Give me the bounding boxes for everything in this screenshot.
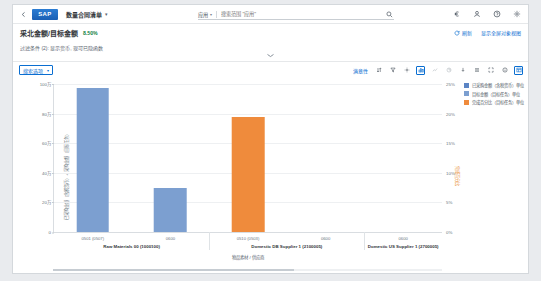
toolbar-right-label[interactable]: 满意性 [353,67,368,74]
x-axis-category-label: 0501 (0507) [82,236,105,241]
settings-gear-icon[interactable] [402,66,411,75]
legend-label: 完成百分比（目标任务）单位 [472,99,524,105]
view-selector-dropdown[interactable]: 搜索选项 ▾ [19,65,53,75]
help-icon[interactable] [491,8,502,19]
gridline [54,84,442,85]
gridline [54,114,442,115]
search-scope-selector[interactable]: 应用 ▾ [198,11,212,18]
sort-icon[interactable] [374,66,383,75]
x-axis-title: 物品素材 / 供应商 [54,254,442,260]
status-badge: 8.50% [83,30,98,36]
y-axis-tick-right: 15% [446,141,455,146]
app-title[interactable]: 数量合同清单 [66,10,102,19]
horizontal-scrollbar[interactable] [53,269,442,271]
search-icon[interactable] [385,10,394,19]
view-selector-label: 搜索选项 [23,67,43,74]
search-bar[interactable]: 应用 ▾ [198,9,394,20]
gridline [54,232,442,233]
x-axis-group-label: Raw Materials 00 (1000100) [103,244,160,249]
y-axis-tick-left: 20万 [42,199,51,205]
filter-icon[interactable] [388,66,397,75]
chart-toolbar: 搜索选项 ▾ 满意性 [13,62,528,78]
y-axis-tick-left: 60万 [42,140,51,146]
chevron-down-icon: ▾ [47,68,49,73]
x-axis-group-label: Domestic US Supplier 1 (2700005) [368,244,439,249]
chart-bar[interactable] [232,117,265,232]
refresh-button[interactable]: 刷新 [454,29,472,36]
y-axis-tick-left: 0 [49,230,51,235]
title-action-group: 刷新 显示全屏对象视图 [454,24,521,41]
settings-icon[interactable] [511,8,522,19]
collapse-header-button[interactable] [13,53,528,62]
search-scope-label: 应用 [198,11,208,18]
legend-item[interactable]: 已采购金额（含税货币）单位 [464,82,524,88]
table-view-icon[interactable] [514,66,523,75]
x-axis-group-divider [364,232,365,250]
kpi-title-row: 采北金额/目标金额 8.50% 刷新 显示全屏对象视图 [13,24,528,41]
filter-summary-text: 过滤条件 (2): 显示货币, 现可已隐函数 [20,44,103,51]
filter-summary-row[interactable]: 过滤条件 (2): 显示货币, 现可已隐函数 [13,41,528,53]
chevron-left-icon[interactable] [18,9,29,20]
chart-line-icon[interactable] [430,66,439,75]
search-input[interactable] [221,11,385,17]
fullscreen-button[interactable]: 显示全屏对象视图 [481,29,521,36]
x-axis-group-label: Domestic DB Supplier 1 (2100005) [251,244,322,249]
chart-legend: 已采购金额（含税货币）单位目标金额（目标任务）单位完成百分比（目标任务）单位 [464,82,524,105]
y-axis-tick-left: 80万 [42,111,51,117]
legend-label: 目标金额（目标任务）单位 [472,91,520,97]
x-axis-group-divider [209,232,210,250]
y-axis-tick-right: 20% [446,111,455,116]
x-axis-category-label: 0600 [166,236,175,241]
y-axis-tick-right: 10% [446,170,455,175]
fullscreen-label: 显示全屏对象视图 [481,29,521,36]
drill-down-icon[interactable] [458,66,467,75]
user-icon[interactable] [471,8,482,19]
app-window: SAP 数量合同清单 ▾ 应用 ▾ [12,4,529,274]
refresh-icon [454,30,460,36]
legend-swatch [464,100,469,105]
chart-bar[interactable] [154,188,187,232]
shell-icon-group [451,8,522,19]
x-axis-category-label: 0600 [321,236,330,241]
currency-icon[interactable] [451,8,462,19]
plot-area: 物品素材 / 供应商 100万80万60万40万20万025%20%15%10%… [53,84,442,233]
chevron-down-icon: ▾ [210,12,212,17]
chart-pie-icon[interactable] [444,66,453,75]
legend-icon[interactable] [472,66,481,75]
scrollbar-thumb[interactable] [53,269,294,271]
info-icon[interactable] [500,66,509,75]
legend-item[interactable]: 完成百分比（目标任务）单位 [464,99,524,105]
legend-swatch [464,83,469,88]
sap-logo[interactable]: SAP [32,9,58,20]
legend-swatch [464,91,469,96]
chart-toolbar-actions: 满意性 [353,62,523,78]
chevron-down-icon[interactable]: ▾ [105,11,108,17]
chart-bar[interactable] [77,88,110,232]
chart-bar-icon[interactable] [416,66,425,75]
x-axis-category-label: 0510 (0503) [237,236,260,241]
y-axis-tick-left: 100万 [40,81,51,87]
shell-header: SAP 数量合同清单 ▾ 应用 ▾ [13,5,528,24]
y-axis-tick-left: 40万 [42,170,51,176]
y-axis-tick-right: 5% [446,200,452,205]
app-root: SAP 数量合同清单 ▾ 应用 ▾ [0,0,541,281]
x-axis-category-label: 0600 [399,236,408,241]
divider [216,11,217,18]
legend-label: 已采购金额（含税货币）单位 [472,82,524,88]
page-title: 采北金额/目标金额 [20,28,78,38]
chart-container: 已采购金额（含税货币）+ 采购金额（目标任务） 完成百分比 物品素材 / 供应商… [13,78,528,273]
refresh-label: 刷新 [462,29,472,36]
y-axis-tick-right: 25% [446,82,455,87]
y-axis-title-right: 完成百分比 [455,166,461,186]
fullscreen-icon[interactable] [486,66,495,75]
legend-item[interactable]: 目标金额（目标任务）单位 [464,91,524,97]
y-axis-tick-right: 0% [446,230,452,235]
